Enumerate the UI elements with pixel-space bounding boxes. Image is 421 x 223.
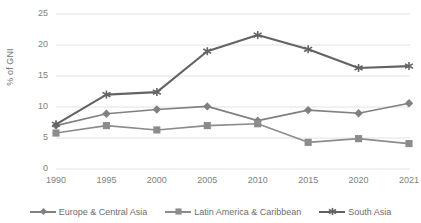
data-point-marker xyxy=(254,120,261,127)
line-chart: % of GNI 2520151050 Europe & Central Asi… xyxy=(0,0,421,223)
legend-item-1[interactable]: Europe & Central Asia xyxy=(30,207,148,217)
legend-label: Latin America & Caribbean xyxy=(194,207,301,217)
x-tick-label: 2020 xyxy=(339,176,379,185)
data-point-marker xyxy=(204,122,211,129)
data-point-marker xyxy=(176,208,182,214)
legend-item-3[interactable]: South Asia xyxy=(319,207,391,217)
legend-label: Europe & Central Asia xyxy=(59,207,148,217)
data-point-marker xyxy=(103,122,110,129)
y-tick-label: 25 xyxy=(22,9,48,18)
legend-marker-icon xyxy=(319,207,345,217)
y-tick-label: 20 xyxy=(22,40,48,49)
data-point-marker xyxy=(52,129,59,136)
data-point-marker xyxy=(405,99,413,107)
legend-item-2[interactable]: Latin America & Caribbean xyxy=(165,207,301,217)
y-tick-label: 0 xyxy=(22,164,48,173)
legend-label: South Asia xyxy=(348,207,391,217)
series-line xyxy=(56,35,409,124)
x-tick-label: 2010 xyxy=(238,176,278,185)
data-point-marker xyxy=(305,139,312,146)
y-tick-label: 5 xyxy=(22,133,48,142)
data-point-marker xyxy=(153,126,160,133)
chart-legend: Europe & Central AsiaLatin America & Car… xyxy=(0,207,421,217)
y-axis-tick-labels: 2520151050 xyxy=(20,0,48,223)
data-point-marker xyxy=(329,208,336,215)
data-point-marker xyxy=(40,208,47,215)
x-tick-label: 2005 xyxy=(187,176,227,185)
x-tick-label: 2021 xyxy=(389,176,421,185)
y-tick-label: 15 xyxy=(22,71,48,80)
data-point-marker xyxy=(354,109,362,117)
chart-canvas xyxy=(56,14,410,169)
x-tick-label: 1990 xyxy=(36,176,76,185)
legend-marker-icon xyxy=(30,207,56,217)
x-tick-label: 1995 xyxy=(86,176,126,185)
data-point-marker xyxy=(405,140,412,147)
legend-marker-icon xyxy=(165,207,191,217)
x-tick-label: 2015 xyxy=(288,176,328,185)
data-point-marker xyxy=(355,135,362,142)
data-point-marker xyxy=(203,102,211,110)
y-tick-label: 10 xyxy=(22,102,48,111)
x-tick-label: 2000 xyxy=(137,176,177,185)
series-2 xyxy=(52,120,412,147)
data-point-marker xyxy=(102,110,110,118)
plot-area xyxy=(56,14,410,169)
y-axis-title: % of GNI xyxy=(5,27,15,107)
